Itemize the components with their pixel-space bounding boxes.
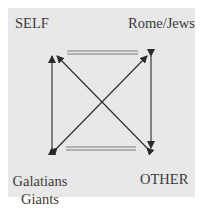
label-giants-text: Giants	[12, 190, 68, 208]
label-galatians-text: Galatians	[12, 172, 68, 190]
label-galatians-giants: Galatians Giants	[12, 172, 68, 208]
